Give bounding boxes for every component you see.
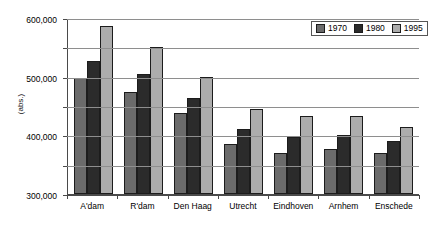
y-axis-tick-label: 500,000: [26, 74, 57, 83]
bar: [137, 74, 150, 194]
bar: [374, 153, 387, 194]
x-axis-category-label: R'dam: [117, 199, 167, 219]
bar: [274, 153, 287, 194]
legend-label: 1980: [366, 24, 385, 33]
y-axis-title-text: (abs.): [16, 94, 25, 114]
x-axis-category-label: Den Haag: [168, 199, 218, 219]
x-axis-category-label: Utrecht: [218, 199, 268, 219]
y-axis-tick-label: 600,000: [26, 16, 57, 25]
x-axis-tick: [419, 195, 420, 199]
legend-swatch: [354, 24, 363, 33]
x-axis-category-label: Arnhem: [318, 199, 368, 219]
bar: [300, 116, 313, 194]
bar-chart: (abs.) 0100,000200,000300,000400,000500,…: [0, 0, 444, 226]
legend-label: 1970: [328, 24, 347, 33]
y-axis-tick-label: 400,000: [26, 133, 57, 142]
y-axis-tick: 0: [63, 195, 67, 196]
x-axis-category-label: Enschede: [369, 199, 419, 219]
bar: [287, 137, 300, 194]
bar: [224, 144, 237, 194]
plot-area: [67, 19, 419, 195]
bar: [74, 78, 87, 194]
bar-group: [168, 19, 218, 194]
chart-legend: 197019801995: [311, 21, 428, 36]
bar: [350, 116, 363, 194]
bar: [124, 92, 137, 194]
x-axis-labels: A'damR'damDen HaagUtrechtEindhovenArnhem…: [67, 199, 419, 219]
bar-group: [68, 19, 118, 194]
bar-groups: [68, 19, 419, 194]
bar-group: [269, 19, 319, 194]
bar: [237, 129, 250, 194]
bar: [324, 149, 337, 194]
bar-group: [118, 19, 168, 194]
bar: [400, 127, 413, 194]
bar: [187, 98, 200, 194]
y-axis-tick-label: 300,000: [26, 192, 57, 201]
legend-item: 1970: [316, 24, 347, 33]
x-axis-category-label: A'dam: [67, 199, 117, 219]
bar: [87, 61, 100, 194]
bar-group: [218, 19, 268, 194]
legend-item: 1995: [392, 24, 423, 33]
legend-swatch: [316, 24, 325, 33]
bar: [200, 77, 213, 194]
x-axis-category-label: Eindhoven: [268, 199, 318, 219]
bar-group: [369, 19, 419, 194]
gridline: [67, 195, 419, 196]
legend-item: 1980: [354, 24, 385, 33]
legend-label: 1995: [404, 24, 423, 33]
y-axis-title: (abs.): [2, 16, 11, 76]
bar: [387, 141, 400, 194]
bar: [174, 113, 187, 194]
bar-group: [319, 19, 369, 194]
bar: [337, 135, 350, 194]
bar: [100, 26, 113, 194]
bar: [150, 47, 163, 194]
legend-swatch: [392, 24, 401, 33]
bar: [250, 109, 263, 194]
